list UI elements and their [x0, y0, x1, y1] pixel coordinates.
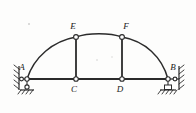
hatch-stroke — [14, 80, 19, 84]
scan-speck — [28, 23, 30, 25]
hinge-circle-icon — [25, 85, 29, 89]
arch-rib-group — [27, 34, 168, 79]
hatch-stroke — [179, 70, 184, 74]
hatch-stroke — [158, 90, 161, 94]
hatch-stroke — [179, 85, 184, 89]
hinge-circle-icon — [20, 77, 24, 81]
scan-speck — [96, 59, 98, 61]
arch-rib-left-segment — [27, 37, 76, 79]
hatch-stroke — [14, 75, 19, 79]
hinge-circle-icon — [74, 77, 79, 82]
structural-diagram-figure: A B C D E F — [0, 0, 196, 113]
hatch-stroke — [179, 65, 184, 69]
vertical-post-group — [76, 37, 122, 79]
node-label-C: C — [71, 84, 78, 94]
hinge-circle-icon — [120, 35, 125, 40]
hatch-stroke — [14, 85, 19, 89]
arch-rib-right-segment — [122, 37, 168, 79]
hinge-circle-icon — [166, 77, 170, 81]
roller-support-icon — [165, 85, 172, 90]
hatch-stroke — [14, 70, 19, 74]
hatch-stroke — [179, 75, 184, 79]
joint-hinges-group — [25, 35, 170, 82]
node-label-B: B — [170, 62, 176, 72]
hatch-stroke — [179, 80, 184, 84]
node-label-A: A — [18, 62, 25, 72]
hinge-circle-icon — [25, 77, 29, 81]
hinge-circle-icon — [120, 77, 125, 82]
scan-speck — [111, 56, 112, 57]
hinge-circle-icon — [173, 77, 177, 81]
hatch-stroke — [14, 65, 19, 69]
node-label-E: E — [69, 21, 76, 31]
hatch-stroke — [18, 90, 21, 94]
hinge-circle-icon — [74, 35, 79, 40]
node-labels-group: A B C D E F — [18, 21, 176, 94]
node-label-F: F — [122, 21, 129, 31]
arch-rib-crown-segment — [76, 34, 122, 37]
node-label-D: D — [116, 84, 124, 94]
diagram-canvas: A B C D E F — [0, 0, 196, 113]
